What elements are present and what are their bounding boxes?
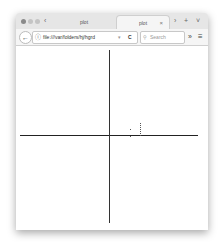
url-bar[interactable]: ⓘ file:///var/folders/hj/hgrd ▾ C (32, 31, 138, 44)
tab-close-icon[interactable]: × (159, 16, 163, 30)
y-axis (109, 50, 110, 223)
close-window-dot[interactable] (21, 19, 26, 24)
page-content (16, 46, 208, 230)
plot-point (140, 131, 141, 132)
tab-label: plot (139, 20, 147, 26)
new-tab-icon[interactable]: + (184, 16, 188, 26)
back-arrow-icon: ← (22, 34, 29, 41)
plot-point (130, 136, 131, 137)
plot-point (140, 133, 141, 134)
plot-point (140, 129, 141, 130)
plot-point (140, 123, 141, 124)
tab-scroll-left-icon[interactable]: ‹ (44, 16, 46, 26)
search-input[interactable]: ⚲ Search (140, 31, 185, 44)
plot-point (130, 129, 131, 130)
search-icon: ⚲ (143, 32, 147, 43)
zoom-window-dot[interactable] (35, 19, 40, 24)
info-icon[interactable]: ⓘ (35, 32, 41, 43)
browser-window: ‹ plot plot × › + ˅ ← ⓘ file:///var/fold… (16, 13, 208, 230)
reload-icon[interactable]: C (128, 32, 132, 43)
plot-point (140, 127, 141, 128)
tab-scroll-right-icon[interactable]: › (174, 16, 176, 26)
nav-bar: ← ⓘ file:///var/folders/hj/hgrd ▾ C ⚲ Se… (16, 29, 208, 46)
overflow-icon[interactable]: » (188, 32, 192, 42)
url-dropdown-icon[interactable]: ▾ (118, 32, 121, 43)
plot-point (140, 135, 141, 136)
plot-point (140, 125, 141, 126)
url-text: file:///var/folders/hj/hgrd (43, 32, 95, 43)
tab-plot-1[interactable]: plot (54, 15, 114, 29)
menu-icon[interactable]: ≡ (198, 32, 203, 42)
tab-bar: ‹ plot plot × › + ˅ (16, 13, 208, 29)
tab-plot-2[interactable]: plot × (116, 15, 170, 30)
minimize-window-dot[interactable] (28, 19, 33, 24)
back-button[interactable]: ← (19, 31, 32, 44)
tab-menu-icon[interactable]: ˅ (196, 16, 200, 26)
tab-label: plot (80, 19, 88, 25)
search-placeholder: Search (150, 32, 166, 43)
